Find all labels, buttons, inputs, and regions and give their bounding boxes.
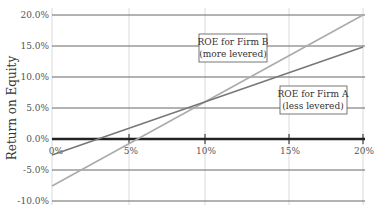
x-tick-label: 15% — [280, 146, 300, 156]
y-tick-label: 20.0% — [20, 10, 49, 20]
y-tick-label: 5.0% — [26, 103, 49, 113]
y-tick-label: 15.0% — [20, 41, 49, 51]
x-tick-label: 20% — [354, 146, 374, 156]
y-axis-title: Return on Equity — [5, 56, 19, 161]
firm-a-label-line2: (less levered) — [282, 101, 343, 111]
y-tick-label: -5.0% — [23, 165, 49, 175]
y-tick-label: 10.0% — [20, 72, 49, 82]
x-tick-label: 5% — [124, 146, 139, 156]
x-tick-label: 10% — [196, 146, 216, 156]
roe-chart: 20.0% 15.0% 10.0% 5.0% 0.0% -5.0% -10.0%… — [0, 0, 385, 216]
firm-a-label-line1: ROE for Firm A — [278, 89, 349, 99]
firm-a-label-box: ROE for Firm A (less levered) — [278, 86, 349, 114]
y-tick-label: -10.0% — [17, 196, 49, 206]
x-axis-labels: 0% 5% 10% 15% 20% — [49, 146, 375, 156]
y-axis-labels: 20.0% 15.0% 10.0% 5.0% 0.0% -5.0% -10.0% — [17, 10, 49, 206]
firm-b-label-line2: (more levered) — [199, 49, 266, 59]
firm-b-label-line1: ROE for Firm B — [198, 37, 269, 47]
y-tick-label: 0.0% — [26, 134, 49, 144]
firm-b-label-box: ROE for Firm B (more levered) — [198, 34, 269, 62]
